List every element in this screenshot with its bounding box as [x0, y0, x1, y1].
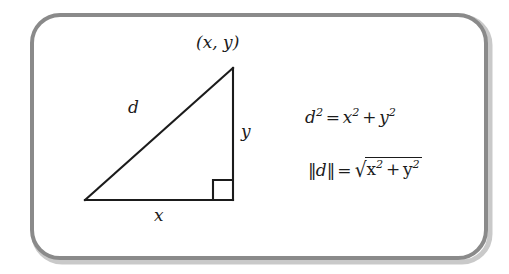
eq2-term1-base: x: [366, 159, 376, 179]
diagram-canvas: [0, 0, 509, 274]
hypotenuse-label: d: [128, 99, 139, 116]
eq2-norm-close: ‖: [327, 160, 335, 180]
horizontal-leg-label: x: [154, 207, 164, 224]
eq1-lhs-base: d: [305, 107, 316, 127]
eq1-lhs-exponent: 2: [316, 106, 323, 119]
vertical-leg-label: y: [241, 123, 251, 140]
figure-container: (x, y) d y x d2=x2+y2 ‖d‖=√x2+y2: [0, 0, 509, 274]
eq1-term1-base: x: [343, 107, 353, 127]
eq1-plus: +: [359, 107, 379, 127]
eq2-norm-open: ‖: [308, 160, 316, 180]
eq2-radicand: x2+y2: [365, 157, 421, 178]
eq2-term2-exponent: 2: [412, 158, 419, 171]
eq2-norm-variable: d: [316, 160, 327, 180]
eq1-term2-base: y: [379, 107, 389, 127]
figure-frame-border: [32, 15, 486, 258]
eq2-equals: =: [335, 160, 355, 180]
equation-pythagorean: d2=x2+y2: [305, 107, 396, 126]
eq2-radical: √x2+y2: [354, 158, 421, 179]
equation-norm: ‖d‖=√x2+y2: [308, 158, 422, 179]
eq2-plus: +: [383, 159, 403, 179]
vertex-coordinate-label: (x, y): [196, 34, 239, 51]
eq1-term2-exponent: 2: [389, 106, 396, 119]
eq1-equals: =: [323, 107, 343, 127]
